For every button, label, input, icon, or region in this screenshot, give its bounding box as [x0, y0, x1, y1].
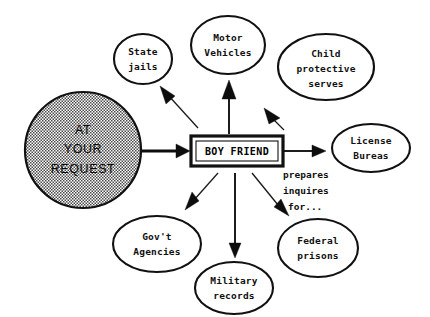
annotation-line-3: for...	[288, 201, 322, 212]
node-motor-vehicles[interactable]: Motor Vehicles	[191, 16, 265, 74]
federal-prisons-line-2: prisons	[297, 250, 338, 261]
military-records-line-2: records	[213, 290, 254, 301]
motor-vehicles-line-1: Motor	[213, 32, 243, 43]
source-line-3: REQUEST	[51, 162, 116, 176]
source-line-2: YOUR	[64, 142, 103, 156]
govt-agencies-line-2: Agencies	[133, 246, 180, 257]
state-jails-line-1: State	[128, 46, 158, 57]
edge-annotation-prepares-inquires-for: prepares inquires for...	[283, 169, 329, 212]
motor-vehicles-line-2: Vehicles	[204, 47, 251, 58]
edge-hub-to-license-bureas	[283, 145, 326, 157]
child-protective-line-2: protective	[296, 63, 355, 74]
license-bureas-line-2: Bureas	[353, 150, 389, 161]
edge-hub-to-child-protective	[264, 108, 284, 130]
state-jails-line-2: jails	[128, 61, 158, 72]
child-protective-line-1: Child	[311, 48, 341, 59]
child-protective-line-3: serves	[308, 78, 344, 89]
edge-source-to-hub	[141, 144, 190, 158]
license-bureas-line-1: License	[350, 135, 392, 146]
node-state-jails[interactable]: State jails	[114, 34, 172, 84]
edge-hub-to-motor-vehicles	[222, 80, 236, 134]
govt-agencies-line-1: Gov't	[142, 231, 172, 242]
annotation-line-2: inquires	[283, 185, 329, 196]
annotation-line-1: prepares	[283, 169, 329, 180]
source-line-1: AT	[75, 123, 91, 137]
edge-hub-to-military-records	[229, 173, 241, 258]
diagram-canvas: AT YOUR REQUEST BOY FRIEND State jails M…	[0, 0, 430, 317]
federal-prisons-line-1: Federal	[297, 235, 339, 246]
node-license-bureas[interactable]: License Bureas	[332, 124, 410, 172]
military-records-line-1: Military	[210, 275, 257, 286]
edge-hub-to-govt-agencies	[185, 173, 218, 210]
node-military-records[interactable]: Military records	[195, 262, 273, 314]
diagram-root: AT YOUR REQUEST BOY FRIEND State jails M…	[0, 0, 430, 317]
node-boy-friend[interactable]: BOY FRIEND	[191, 136, 283, 166]
node-govt-agencies[interactable]: Gov't Agencies	[113, 216, 201, 272]
hub-label: BOY FRIEND	[205, 146, 269, 157]
node-at-your-request[interactable]: AT YOUR REQUEST	[25, 92, 141, 208]
node-federal-prisons[interactable]: Federal prisons	[278, 219, 358, 277]
edge-hub-to-state-jails	[160, 86, 198, 128]
node-child-protective-serves[interactable]: Child protective serves	[278, 34, 374, 100]
